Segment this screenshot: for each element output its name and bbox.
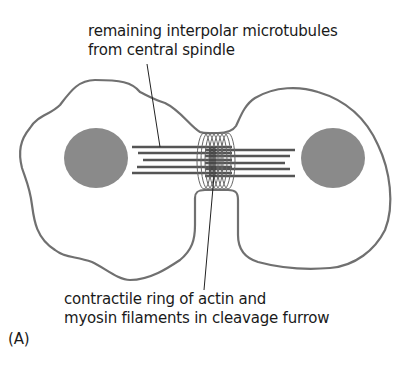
left-nucleus [64, 128, 128, 188]
right-nucleus [301, 128, 365, 188]
microtubules-label-line1: remaining interpolar microtubules [88, 22, 338, 41]
leader-line-contractile-ring [204, 176, 214, 290]
panel-label: (A) [8, 330, 29, 349]
contractile-ring-label: contractile ring of actin and myosin fil… [64, 290, 329, 328]
contractile-ring-label-line2: myosin filaments in cleavage furrow [64, 309, 329, 328]
microtubules-label: remaining interpolar microtubules from c… [88, 22, 338, 60]
ring-overlap-dense [209, 147, 216, 176]
microtubules-label-line2: from central spindle [88, 41, 338, 60]
contractile-ring-label-line1: contractile ring of actin and [64, 290, 329, 309]
